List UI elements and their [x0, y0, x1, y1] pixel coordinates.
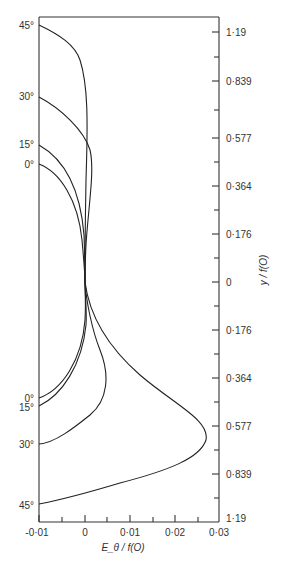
- svg-text:-0·01: -0·01: [25, 527, 49, 538]
- svg-text:0: 0: [82, 527, 88, 538]
- y-tick-labels: 1·19 0·839 0·577 0·364 0·176 0 0·176 0·3…: [226, 27, 252, 524]
- curves: [39, 25, 206, 504]
- svg-text:0·176: 0·176: [226, 229, 252, 240]
- svg-text:0·577: 0·577: [226, 133, 252, 144]
- svg-text:0·03: 0·03: [209, 527, 229, 538]
- curve-45deg: [39, 25, 206, 504]
- svg-text:45°: 45°: [19, 500, 34, 511]
- svg-text:15°: 15°: [19, 402, 34, 413]
- x-tick-labels: -0·01 0 0·01 0·02 0·03: [25, 527, 229, 538]
- svg-text:45°: 45°: [19, 20, 34, 31]
- x-axis-title: E_θ / f(O): [101, 542, 144, 553]
- angle-labels-top: 45° 30° 15° 0°: [19, 20, 34, 170]
- svg-text:0·839: 0·839: [226, 76, 252, 87]
- svg-text:0·02: 0·02: [165, 527, 185, 538]
- plot-frame: [39, 17, 219, 522]
- svg-text:0·364: 0·364: [226, 373, 252, 384]
- x-axis-ticks: [39, 515, 198, 522]
- angle-labels-bottom: 0° 15° 30° 45°: [19, 393, 34, 511]
- svg-text:0·01: 0·01: [120, 527, 140, 538]
- chart: 1·19 0·839 0·577 0·364 0·176 0 0·176 0·3…: [0, 0, 290, 565]
- svg-text:0·176: 0·176: [226, 325, 252, 336]
- svg-text:0·364: 0·364: [226, 181, 252, 192]
- svg-text:0·839: 0·839: [226, 469, 252, 480]
- svg-text:30°: 30°: [19, 91, 34, 102]
- svg-text:0°: 0°: [24, 159, 34, 170]
- y-axis-title: y / f(O): [258, 255, 269, 287]
- svg-text:30°: 30°: [19, 439, 34, 450]
- svg-text:1·19: 1·19: [226, 513, 246, 524]
- svg-text:0·577: 0·577: [226, 421, 252, 432]
- curve-0deg: [39, 164, 85, 398]
- svg-text:15°: 15°: [19, 139, 34, 150]
- svg-text:0: 0: [226, 277, 232, 288]
- y-axis-ticks: [212, 32, 219, 498]
- curve-30deg: [39, 97, 106, 444]
- svg-text:1·19: 1·19: [226, 27, 246, 38]
